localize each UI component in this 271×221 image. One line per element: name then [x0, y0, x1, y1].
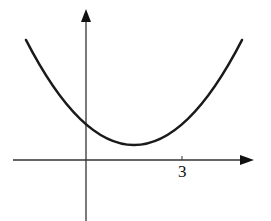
- x-axis: [13, 155, 254, 165]
- x-axis-arrow-icon: [240, 155, 254, 165]
- parabola-graph: [0, 0, 271, 221]
- x-intercept-label: 3: [178, 162, 187, 182]
- y-axis: [81, 9, 91, 221]
- y-axis-arrow-icon: [81, 9, 91, 22]
- parabola-curve: [26, 40, 242, 145]
